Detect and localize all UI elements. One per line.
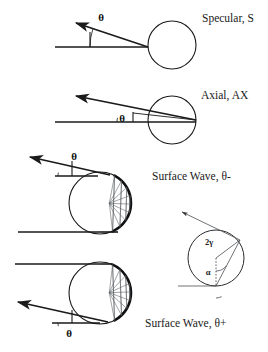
scattered-ray-specular xyxy=(76,23,148,47)
theta-label-axial: θ xyxy=(119,112,125,124)
inset-alpha-arc xyxy=(216,297,222,298)
internal-chord xyxy=(109,203,131,204)
inset-alpha-label: α xyxy=(206,267,211,277)
inset-exit-ray xyxy=(182,212,240,240)
panel-axial: θAxial, AX xyxy=(55,89,249,144)
mechanism-label-axial: Axial, AX xyxy=(201,89,249,102)
angle-definition-inset: 2γα xyxy=(178,212,244,298)
inset-gamma-label: 2γ xyxy=(205,237,213,247)
panel-surface-wave-plus: θSurface Wave, θ+ xyxy=(15,262,226,339)
panel-surface-wave-minus: θSurface Wave, θ- xyxy=(18,150,231,234)
theta-label-specular: θ xyxy=(98,11,104,23)
scattered-ray-surface-wave-minus xyxy=(30,157,110,175)
mechanism-label-specular: Specular, S xyxy=(202,12,254,25)
scattered-ray-axial xyxy=(76,96,196,120)
internal-chord xyxy=(109,181,121,204)
figure-canvas: θSpecular, SθAxial, AXθSurface Wave, θ-θ… xyxy=(0,0,268,352)
panels-group: θSpecular, SθAxial, AXθSurface Wave, θ-θ… xyxy=(15,11,254,339)
theta-label-surface-wave-plus: θ xyxy=(66,327,72,339)
scattering-diagram-figure: θSpecular, SθAxial, AXθSurface Wave, θ-θ… xyxy=(0,0,268,352)
scattered-ray-surface-wave-plus xyxy=(18,302,108,322)
mechanism-label-surface-wave-minus: Surface Wave, θ- xyxy=(152,170,231,183)
mechanism-label-surface-wave-plus: Surface Wave, θ+ xyxy=(145,317,226,330)
theta-angle-arc-specular xyxy=(90,29,93,47)
inset-radius-line xyxy=(216,240,240,258)
internal-chord xyxy=(109,276,125,293)
internal-chord xyxy=(109,292,131,293)
internal-chord xyxy=(109,196,130,204)
theta-label-surface-wave-minus: θ xyxy=(71,150,77,162)
inset-chord xyxy=(216,240,240,286)
scatterer-circle-specular xyxy=(148,21,196,69)
scatterer-circle-axial xyxy=(148,96,196,144)
internal-chord xyxy=(109,203,125,220)
internal-chord xyxy=(109,293,130,301)
panel-specular: θSpecular, S xyxy=(55,11,254,69)
internal-chord xyxy=(109,293,121,316)
